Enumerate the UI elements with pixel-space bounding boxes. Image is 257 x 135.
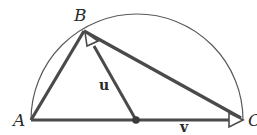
vector-label-u: u: [99, 77, 109, 93]
vector-label-v: v: [179, 119, 189, 135]
point-label-C: C: [248, 110, 257, 130]
segment-BC: [84, 31, 241, 118]
segment-AB: [31, 31, 84, 120]
point-label-B: B: [73, 5, 87, 25]
point-label-A: A: [11, 110, 25, 130]
center-point: [132, 116, 140, 124]
geometry-diagram: B A C u v: [0, 0, 257, 135]
